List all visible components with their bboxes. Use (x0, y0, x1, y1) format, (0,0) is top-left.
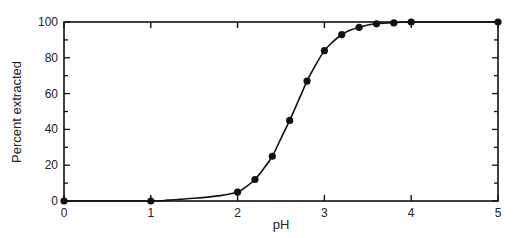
data-point (494, 18, 501, 25)
y-tick-label: 0 (51, 194, 58, 208)
y-tick-label: 60 (45, 87, 59, 101)
plot-frame (64, 22, 498, 201)
data-point (356, 24, 363, 31)
x-tick-label: 2 (234, 206, 241, 220)
x-axis-title: pH (273, 217, 290, 232)
data-point (60, 197, 67, 204)
data-point (286, 117, 293, 124)
chart: 012345020406080100 pH Percent extracted (0, 0, 516, 238)
x-tick-label: 4 (408, 206, 415, 220)
data-point (251, 176, 258, 183)
data-point (338, 31, 345, 38)
data-point (408, 18, 415, 25)
y-tick-label: 80 (45, 51, 59, 65)
data-point (321, 47, 328, 54)
data-point (390, 19, 397, 26)
data-point (147, 197, 154, 204)
x-tick-label: 0 (61, 206, 68, 220)
y-tick-label: 20 (45, 158, 59, 172)
x-tick-label: 3 (321, 206, 328, 220)
data-point (373, 20, 380, 27)
data-point (269, 153, 276, 160)
data-point (234, 188, 241, 195)
y-tick-label: 100 (38, 15, 58, 29)
fit-curve (64, 22, 498, 201)
y-tick-label: 40 (45, 122, 59, 136)
data-markers (60, 18, 501, 204)
y-axis-title: Percent extracted (9, 61, 24, 163)
tick-labels: 012345020406080100 (38, 15, 502, 220)
data-point (303, 77, 310, 84)
x-tick-label: 1 (147, 206, 154, 220)
x-tick-label: 5 (495, 206, 502, 220)
axis-ticks (64, 22, 498, 201)
